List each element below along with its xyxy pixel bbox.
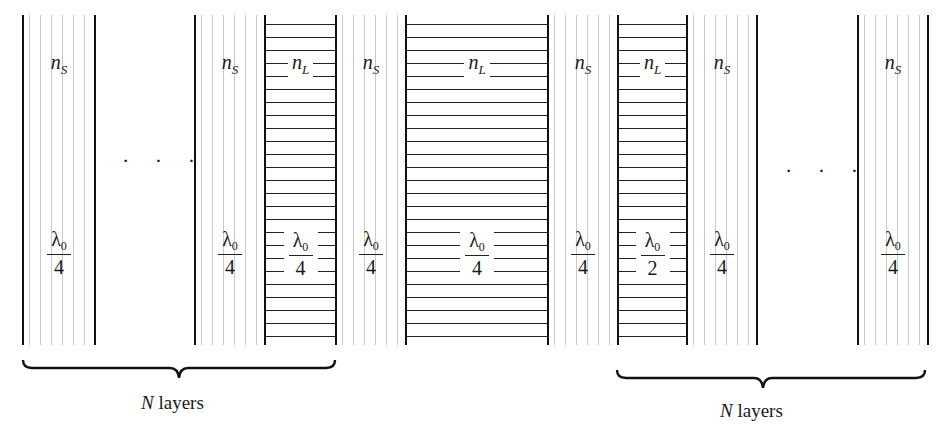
layer-boundary [335, 15, 337, 345]
layer-boundary [927, 15, 929, 345]
thickness-label: λ04 [265, 229, 336, 279]
layer-boundary [756, 15, 758, 345]
thickness-label: λ04 [336, 229, 406, 277]
layer-boundary [264, 15, 266, 345]
brace-left-label: N layers [141, 392, 204, 414]
index-label: nS [23, 51, 95, 78]
index-label: nS [858, 51, 928, 78]
index-label: nS [195, 51, 265, 78]
thickness-label: λ04 [858, 229, 928, 277]
ellipsis-right: · · · [785, 158, 868, 184]
thickness-label: λ04 [23, 229, 95, 277]
layer-l-4: nLλ04 [406, 15, 548, 345]
thickness-label: λ04 [687, 229, 757, 277]
thickness-label: λ02 [618, 229, 687, 279]
brace-right-label: N layers [720, 400, 783, 422]
index-label: nS [548, 51, 618, 78]
thickness-label: λ04 [195, 229, 265, 277]
layer-s-5: nSλ04 [548, 15, 618, 345]
layer-s-1: nSλ04 [195, 15, 265, 345]
brace-left-icon [20, 358, 340, 386]
thickness-label: λ04 [406, 229, 548, 279]
layer-boundary [617, 15, 619, 345]
index-label: nS [336, 51, 406, 78]
brace-left-label-var: N [141, 392, 154, 413]
layer-boundary [94, 15, 96, 345]
layer-boundary [22, 15, 24, 345]
brace-left-label-text: layers [154, 392, 204, 413]
layer-boundary [547, 15, 549, 345]
thickness-label: λ04 [548, 229, 618, 277]
layer-boundary [194, 15, 196, 345]
layer-boundary [686, 15, 688, 345]
layer-s-7: nSλ04 [687, 15, 757, 345]
layer-s-3: nSλ04 [336, 15, 406, 345]
ellipsis-left: · · · [122, 148, 205, 174]
brace-right-icon [614, 368, 934, 396]
brace-right-label-text: layers [733, 400, 783, 421]
layer-l-2: nLλ04 [265, 15, 336, 345]
layer-s-0: nSλ04 [23, 15, 95, 345]
index-label: nL [265, 51, 336, 78]
layer-boundary [405, 15, 407, 345]
index-label: nS [687, 51, 757, 78]
layer-l-6: nLλ02 [618, 15, 687, 345]
index-label: nL [406, 51, 548, 78]
index-label: nL [618, 51, 687, 78]
layer-s-8: nSλ04 [858, 15, 928, 345]
brace-right-label-var: N [720, 400, 733, 421]
